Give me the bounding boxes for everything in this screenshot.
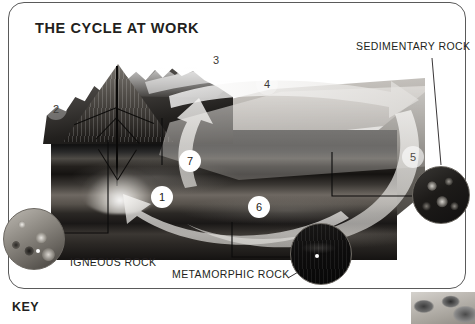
metamorphic-rock-inset[interactable] [290, 223, 352, 285]
label-igneous-rock: IGNEOUS ROCK [70, 256, 156, 268]
igneous-rock-inset[interactable] [3, 208, 65, 270]
inset-pointer-dot [315, 254, 319, 258]
leader-sedimentary-to-block [332, 152, 412, 196]
label-sedimentary-rock: SEDIMENTARY ROCK [356, 40, 470, 52]
corner-photo-thumbnail [411, 292, 475, 324]
page-root: THE CYCLE AT WORK [0, 0, 475, 324]
inset-pointer-dot [36, 249, 40, 253]
leader-sedimentary [432, 58, 441, 165]
leader-igneous-to-block [62, 140, 108, 233]
leader-metamorphic-to-block [232, 222, 290, 257]
key-heading: KEY [12, 300, 39, 314]
sedimentary-rock-inset[interactable] [412, 166, 470, 224]
label-metamorphic-rock: METAMORPHIC ROCK [172, 268, 290, 280]
